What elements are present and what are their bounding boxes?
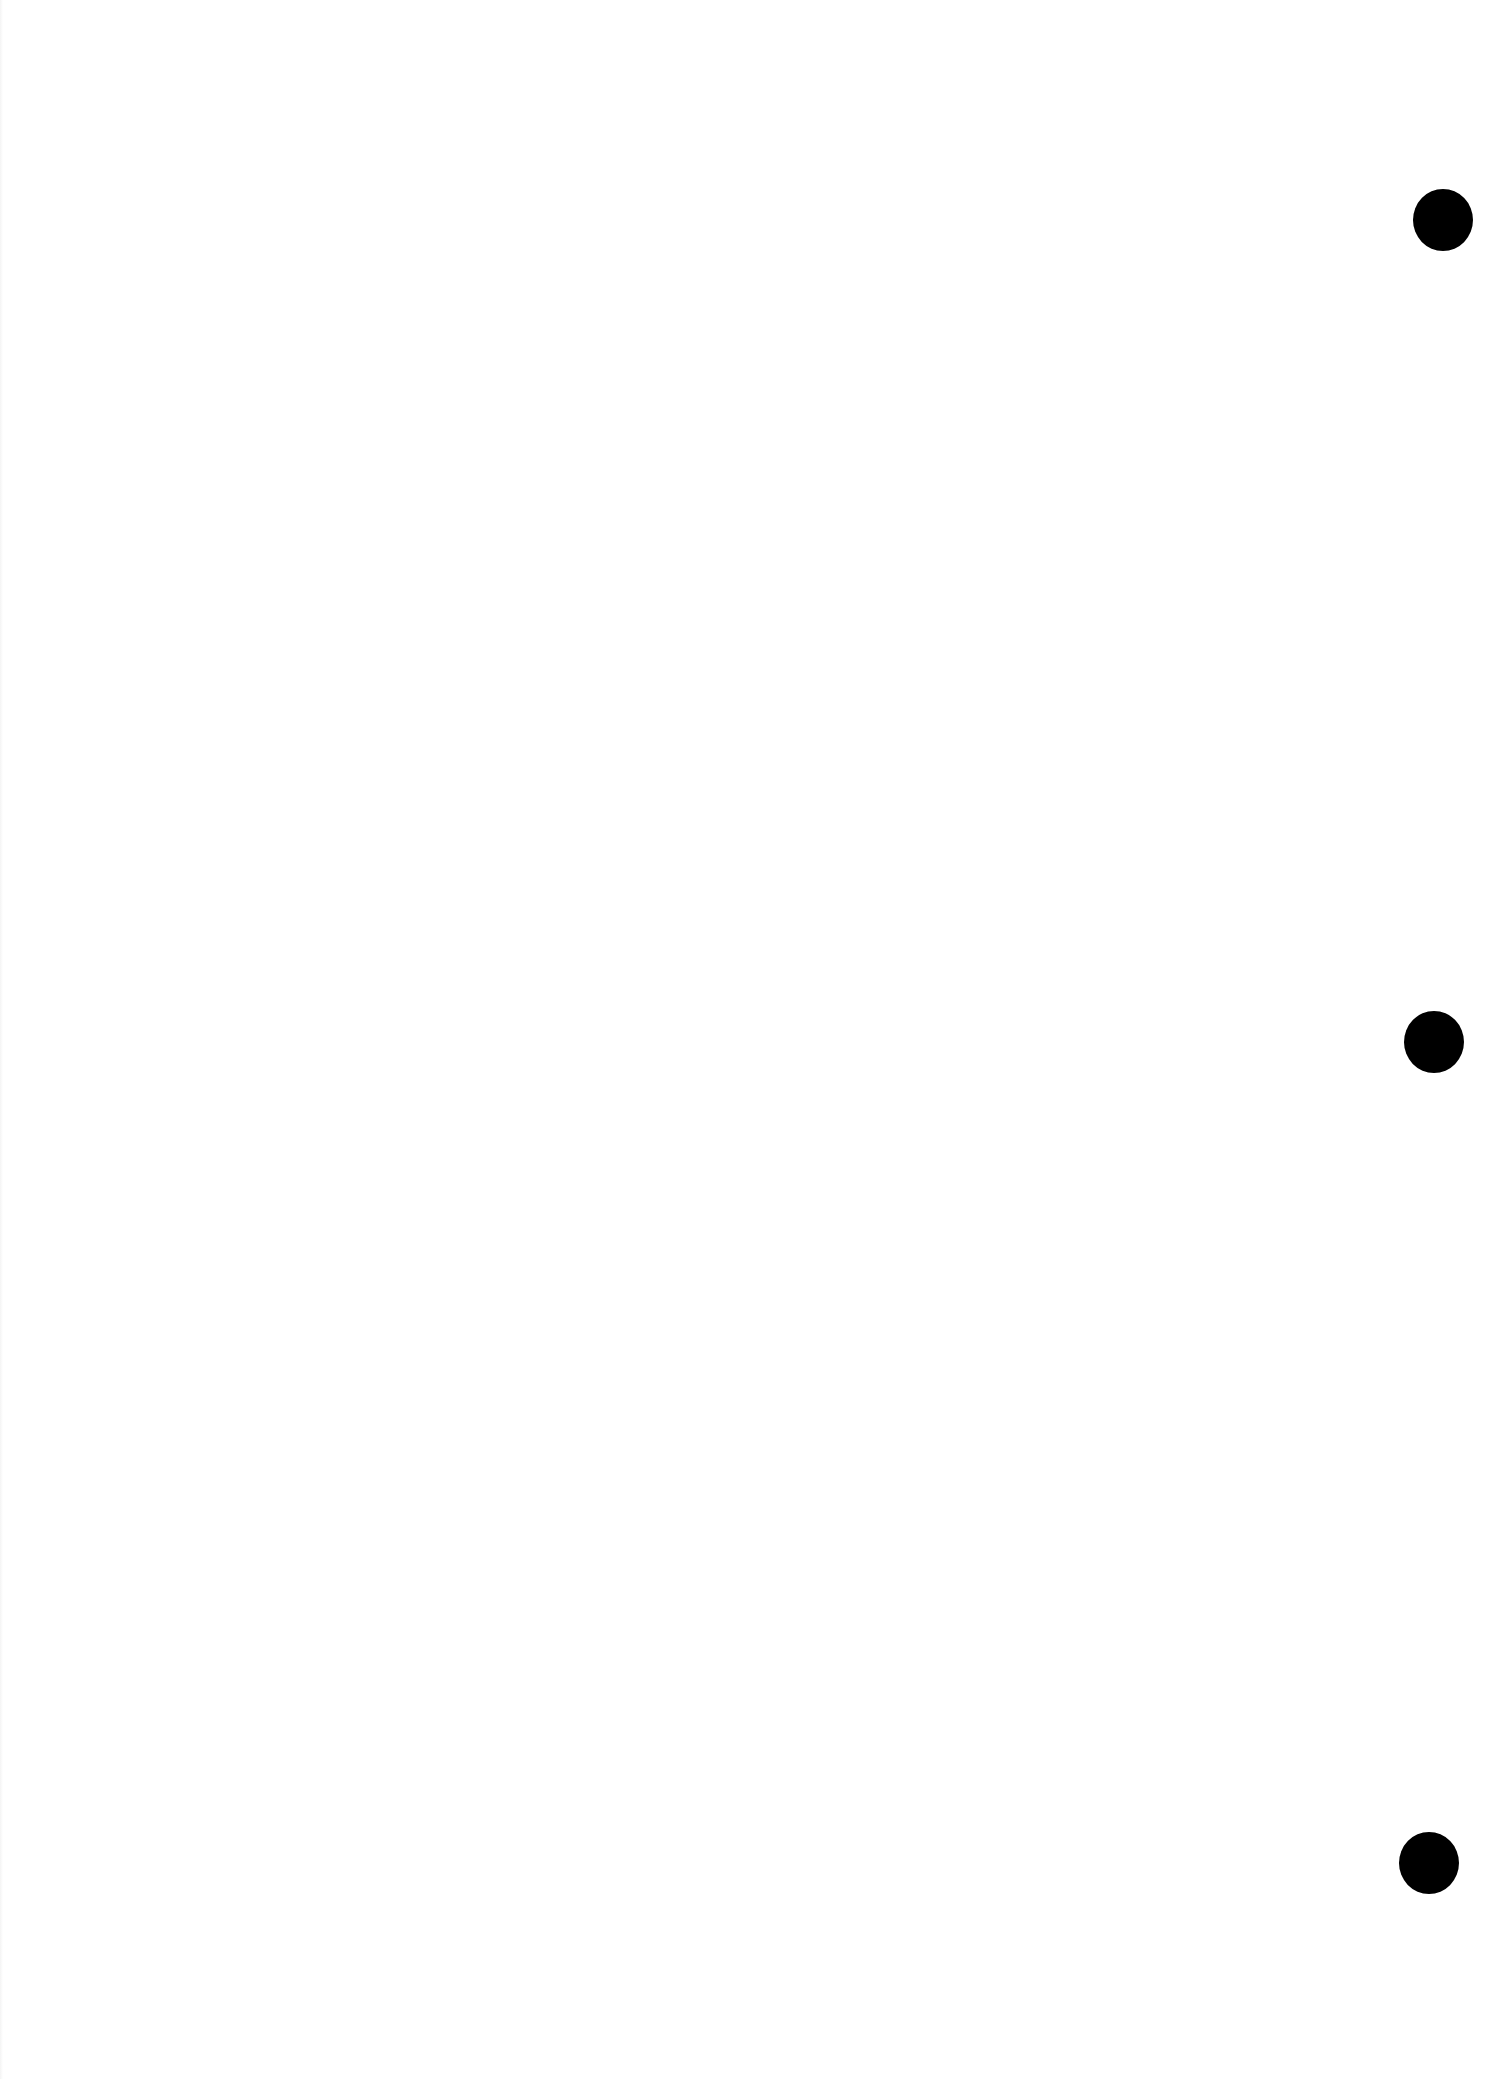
- binder-hole-icon: [1413, 189, 1473, 251]
- binder-hole-icon: [1404, 1011, 1464, 1073]
- blank-document-page: [0, 0, 1488, 2079]
- binder-hole-icon: [1399, 1832, 1459, 1894]
- page-left-edge: [0, 0, 3, 2079]
